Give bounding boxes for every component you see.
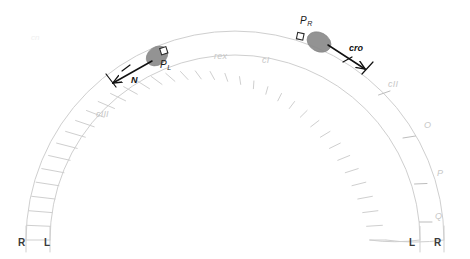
corner-smudge-artifact: cn — [31, 33, 39, 42]
transcript-arrow-cro — [328, 45, 373, 74]
genome-arc-svg — [0, 0, 470, 259]
genome-ladder — [26, 31, 444, 252]
tick-O — [403, 136, 416, 138]
figure-canvas: cIII rex cI cII O P Q PL PR N cro R L L … — [0, 0, 470, 259]
tick-P — [415, 184, 428, 185]
rna-polymerase-left — [142, 42, 171, 70]
transcript-arrow-n — [106, 61, 152, 87]
ladder-rungs — [26, 71, 386, 240]
ladder-outer-arc — [26, 31, 444, 240]
rna-polymerase-right — [304, 28, 335, 57]
promoter-marker-pl — [160, 47, 168, 55]
promoter-marker-pr — [296, 32, 304, 40]
restriction-ticks — [379, 91, 433, 222]
ladder-end-tails — [26, 226, 444, 252]
